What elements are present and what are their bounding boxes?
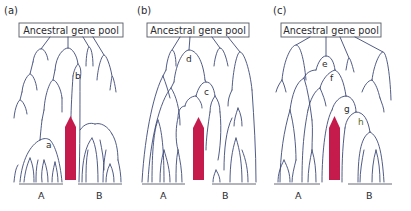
node-label-h: h — [358, 117, 364, 127]
group-label-b-panel-b: B — [222, 190, 229, 201]
ancestral-gene-pool-label-b: Ancestral gene pool — [150, 25, 246, 36]
group-label-a-panel-a: A — [38, 190, 45, 201]
red-arrow-c — [329, 116, 340, 180]
panel-label-a: (a) — [4, 5, 18, 16]
red-arrow-b — [193, 117, 204, 180]
group-label-a-panel-b: A — [160, 190, 167, 201]
ancestral-gene-pool-label-a: Ancestral gene pool — [23, 25, 119, 36]
panel-b: (b) Ancestral gene pool — [137, 5, 256, 201]
node-label-b: b — [75, 71, 81, 81]
ancestral-gene-pool-label-c: Ancestral gene pool — [283, 25, 379, 36]
gene-tree-figure: (a) Ancestral gene pool — [0, 0, 411, 211]
group-label-a-panel-c: A — [295, 190, 302, 201]
red-arrow-a — [65, 116, 76, 180]
panel-c: (c) Ancestral gene pool — [273, 5, 392, 201]
node-label-a: a — [46, 140, 52, 150]
node-label-d: d — [186, 54, 192, 64]
group-label-b-panel-c: B — [366, 190, 373, 201]
group-label-b-panel-a: B — [96, 190, 103, 201]
panel-label-c: (c) — [273, 5, 286, 16]
node-label-e: e — [322, 59, 328, 69]
node-label-c: c — [204, 87, 209, 97]
node-label-g: g — [344, 104, 350, 114]
panel-label-b: (b) — [137, 5, 151, 16]
panel-a: (a) Ancestral gene pool — [4, 5, 123, 201]
node-label-f: f — [330, 73, 334, 83]
